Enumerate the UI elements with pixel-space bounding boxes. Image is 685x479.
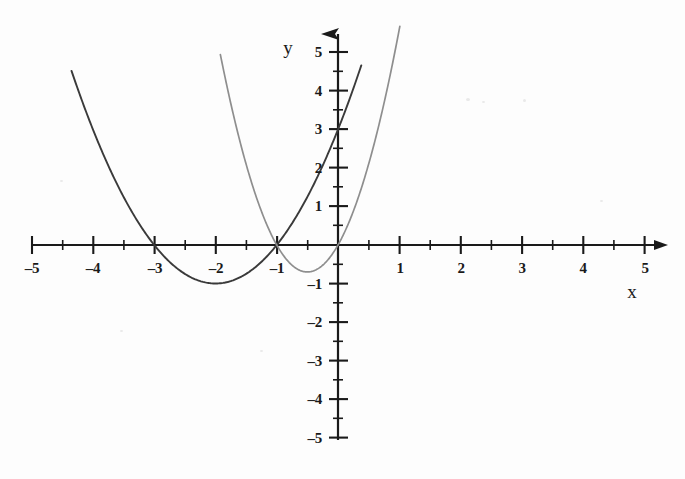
x-tick-label--4: –4 (86, 260, 100, 277)
y-tick-label--2: –2 (308, 314, 322, 331)
x-tick-label-4: 4 (579, 260, 586, 277)
y-tick-label--5: –5 (308, 430, 322, 447)
y-tick-label--1: –1 (308, 276, 322, 293)
x-axis-name: x (627, 281, 637, 303)
y-tick-label-3: 3 (315, 121, 322, 138)
figure-canvas: –5 –4 –3 –2 –1 1 2 3 4 5 5 4 3 2 1 –1 –2… (0, 0, 685, 479)
y-tick-label-1: 1 (315, 198, 322, 215)
x-tick-label-3: 3 (518, 260, 525, 277)
y-tick-label-5: 5 (315, 44, 322, 61)
axis-lines (32, 34, 655, 440)
x-tick-label--5: –5 (25, 260, 39, 277)
x-tick-label--1: –1 (270, 260, 284, 277)
x-tick-label-1: 1 (396, 260, 403, 277)
cartesian-plot (0, 0, 685, 479)
y-tick-label--4: –4 (308, 391, 322, 408)
y-tick-label-4: 4 (315, 83, 322, 100)
y-axis-name: y (283, 37, 293, 59)
parabola-light-curve (220, 26, 399, 272)
x-tick-label--2: –2 (209, 260, 223, 277)
x-tick-label--3: –3 (148, 260, 162, 277)
y-tick-label--3: –3 (308, 353, 322, 370)
x-tick-label-2: 2 (457, 260, 464, 277)
y-tick-label-2: 2 (315, 160, 322, 177)
x-tick-label-5: 5 (641, 260, 648, 277)
